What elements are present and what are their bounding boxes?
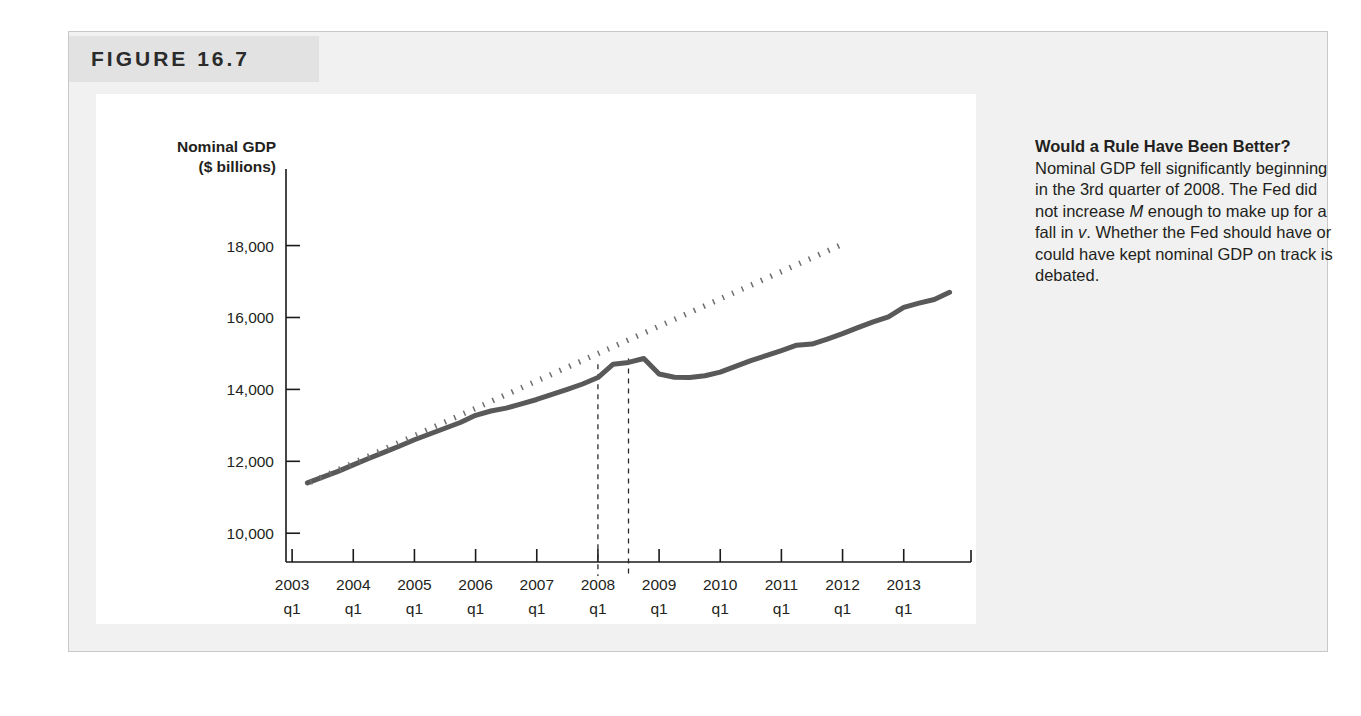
figure-panel: FIGURE 16.7 10,00012,00014,00016,00018,0… (68, 31, 1328, 652)
figure-caption: Would a Rule Have Been Better? Nominal G… (1035, 136, 1335, 287)
y-tick-label: 10,000 (227, 525, 275, 542)
y-tick-label: 18,000 (227, 238, 275, 255)
y-tick-label: 14,000 (227, 381, 275, 398)
y-tick-label: 16,000 (227, 309, 275, 326)
trend-line-series (310, 246, 839, 483)
x-tick-label-quarter: q1 (589, 600, 606, 617)
figure-number-label: FIGURE 16.7 (91, 47, 250, 71)
y-tick-label: 12,000 (227, 453, 275, 470)
x-tick-label-quarter: q1 (895, 600, 912, 617)
figure-number-tag: FIGURE 16.7 (69, 36, 319, 82)
x-tick-label-year: 2013 (886, 576, 920, 593)
caption-title: Would a Rule Have Been Better? (1035, 137, 1291, 155)
y-axis-title-line1: Nominal GDP (177, 138, 276, 155)
x-tick-label-year: 2011 (765, 576, 798, 593)
chart-labels: 10,00012,00014,00016,00018,000Nominal GD… (177, 138, 969, 624)
x-tick-label-year: 2012 (825, 576, 859, 593)
x-tick-label-year: 2006 (458, 576, 492, 593)
x-tick-label-quarter: q1 (650, 600, 667, 617)
y-axis-title-line2: ($ billions) (199, 158, 277, 175)
x-tick-label-quarter: q1 (528, 600, 545, 617)
x-tick-label-year: 2009 (642, 576, 676, 593)
nominal-gdp-series (307, 292, 949, 483)
x-tick-label-quarter: q1 (406, 600, 423, 617)
nominal-gdp-line-chart: 10,00012,00014,00016,00018,000Nominal GD… (96, 94, 976, 624)
x-tick-label-quarter: q1 (345, 600, 362, 617)
x-tick-label-quarter: q1 (283, 600, 300, 617)
x-tick-label-quarter: q1 (712, 600, 729, 617)
x-tick-label-year: 2003 (275, 576, 309, 593)
x-tick-label-year: 2004 (336, 576, 371, 593)
chart-series (307, 246, 949, 483)
x-tick-label-year: 2005 (397, 576, 431, 593)
x-tick-label-quarter: q1 (773, 600, 790, 617)
chart-card: 10,00012,00014,00016,00018,000Nominal GD… (96, 94, 976, 624)
x-tick-label-quarter: q1 (467, 600, 484, 617)
caption-italic-m: M (1129, 202, 1143, 220)
x-tick-label-year: 2010 (703, 576, 738, 593)
x-tick-label-year: 2007 (520, 576, 554, 593)
chart-guide-lines (598, 358, 629, 576)
x-tick-label-year: 2008 (581, 576, 615, 593)
x-tick-label-quarter: q1 (834, 600, 851, 617)
